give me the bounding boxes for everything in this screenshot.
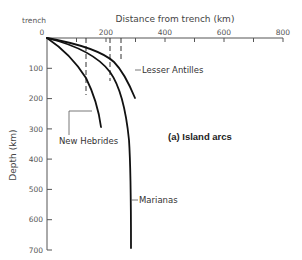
label-lesser-antilles: Lesser Antilles — [142, 65, 204, 75]
panel-title: (a) Island arcs — [168, 131, 232, 142]
label-marianas: Marianas — [139, 195, 178, 205]
x-tick-600: 600 — [217, 28, 232, 37]
curve-new-hebrides — [47, 38, 101, 127]
y-tick-500: 500 — [29, 185, 44, 194]
x-tick-400: 400 — [158, 28, 173, 37]
x-tick-800: 800 — [276, 28, 291, 37]
leader-new-hebrides — [69, 111, 92, 135]
x-ticks — [77, 38, 284, 42]
label-new-hebrides: New Hebrides — [59, 136, 119, 146]
y-tick-300: 300 — [29, 125, 44, 134]
y-tick-100: 100 — [29, 64, 44, 73]
x-tick-0: 0 — [40, 28, 45, 37]
x-tick-200: 200 — [99, 28, 114, 37]
trench-label: trench — [22, 16, 46, 25]
y-ticks — [47, 68, 52, 250]
y-axis-title: Depth (km) — [8, 129, 18, 180]
y-tick-400: 400 — [29, 155, 44, 164]
y-tick-700: 700 — [29, 246, 44, 255]
subduction-depth-chart: Distance from trench (km) trench Depth (… — [0, 0, 302, 260]
y-tick-200: 200 — [29, 94, 44, 103]
y-tick-600: 600 — [29, 215, 44, 224]
x-axis-title: Distance from trench (km) — [116, 14, 235, 24]
